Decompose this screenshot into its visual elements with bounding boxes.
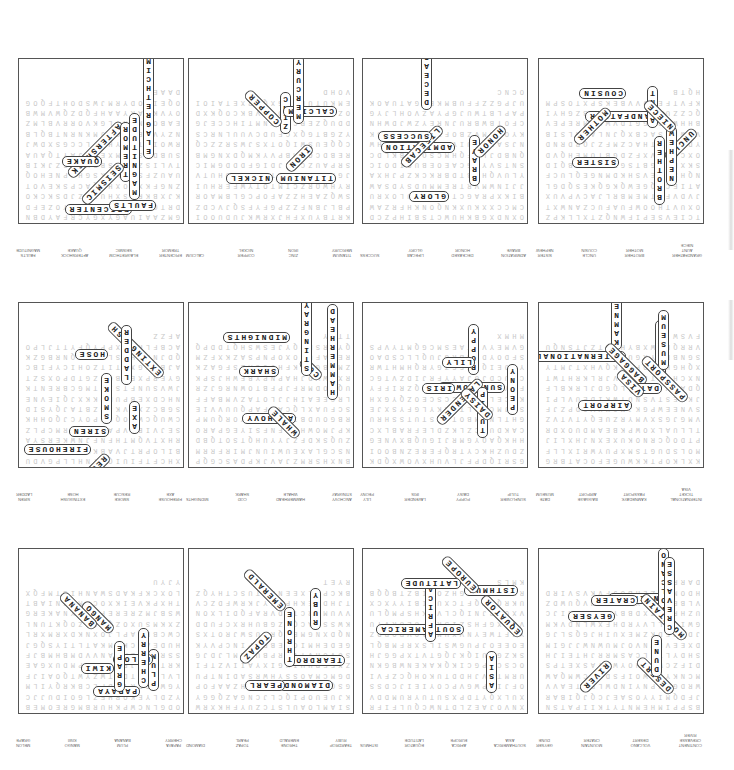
puzzle-3: TEARDROPRUBYTHRONEEMERALDTOPAZPEARLDIAMO… [184, 548, 354, 748]
word-list-entry: LADDER [16, 492, 32, 497]
grid-letters: GMZAAIUAGYXGYCRFAYDBNDRTQGDBFAUYVHYAYOZE… [22, 88, 180, 221]
puzzle-6: SUNFLOWERTULIPPOPPYDAISYLAVENDERIRISLILY… [358, 302, 528, 502]
word-list-entry: AUNT [682, 248, 693, 253]
word-list-column: LILYPEONY [360, 468, 374, 502]
circled-word: SOUTHAMERICA [376, 624, 464, 635]
letter-grid: ODGLNCWPKHURBMGREOMEBYZDLYEKORHEZLGOIDUJ… [18, 548, 184, 714]
word-list-entry: AIRPORT [579, 492, 597, 497]
word-list-entry: NEPHEW [536, 248, 554, 253]
word-list-entry: GRANDFATHER [672, 253, 702, 258]
word-list-entry: FAULTS [21, 253, 36, 258]
word-list-column: BAGGAGEAIRPORT [578, 468, 598, 502]
word-list-entry: SMOKE [115, 497, 129, 502]
word-list: SOUTHAMERICAASIAAFRICAEUROPEEQUATORLATIT… [358, 714, 528, 748]
word-list-column: SUCCESS [360, 224, 379, 258]
word-list: ANCHOVYSTINGRAYHAMMERHEADWHALECODSHARKMI… [184, 468, 354, 502]
word-list-entry: TOPAZ [236, 743, 249, 748]
word-list-entry: BAGGAGE [578, 497, 598, 502]
circled-word: MIDNIGHTS [223, 332, 290, 343]
word-list-entry: PEONY [360, 492, 374, 497]
word-list-column: EPICENTERTREMOR [159, 224, 182, 258]
word-list-entry: STINGRAY [332, 492, 352, 497]
word-list: SUNFLOWERTULIPPOPPYDAISYLAVENDERIRISLILY… [358, 468, 528, 502]
circled-word: HOSE [75, 349, 108, 360]
word-list-column: EQUATORLATITUDE [405, 714, 424, 748]
circled-word: FAULTS [109, 200, 156, 211]
word-list-entry: PAPAYA [166, 743, 181, 748]
circled-word: SISTER [572, 157, 619, 168]
circled-word: SUCCESS [378, 131, 432, 142]
word-list-entry: PLUM [117, 743, 128, 748]
word-list-column: UNCLECOUSIN [581, 224, 597, 258]
circled-word: GLORY [409, 191, 449, 202]
letter-grid: SIAMLOAULSTCZUYFHKXRWKJUEUOPIQCLJCNGAZQG… [188, 548, 354, 714]
word-list-entry: COPPER [238, 253, 255, 258]
letter-grid: GSRIQDPFJLVUHXVOWXQDKZDUZHKCYTRQFEREZNBO… [362, 302, 528, 468]
word-list-entry: RUBY [335, 738, 346, 743]
word-list: PAPAYACHERRYPLUMBANANAMANGOKIWIMELONGRAP… [14, 714, 184, 748]
word-list-column: SMOKERESCUE [114, 468, 131, 502]
word-list-entry: GEYSER [536, 743, 553, 748]
circled-word: LILY [442, 357, 475, 368]
circled-word: PEARL [245, 680, 285, 691]
word-list-entry: NIECE [681, 243, 693, 248]
word-list-entry: DECEASED [451, 253, 473, 258]
word-list-entry: LATITUDE [405, 738, 424, 743]
circled-word: LADDER [121, 325, 132, 385]
word-list-entry: MELON [16, 743, 30, 748]
grid-letters: GSRIQDPFJLVUHXVOWXQDKZDUZHKCYTRQFEREZNBO… [366, 332, 524, 465]
circled-word: CREVASSE [664, 557, 675, 635]
circled-word: DIAMOND [279, 680, 333, 691]
word-list-column: AFRICAEUROPE [450, 714, 467, 748]
circled-word: LATITUDE [401, 578, 461, 589]
letter-grid: KXLKOPTKKWUGEFOCATBRGMOLSDUGTSMXPUYWRIXL… [538, 302, 704, 468]
circled-word: CALCIUM [283, 106, 337, 117]
circled-word: BRAVE [469, 135, 480, 186]
circled-word: KIWI [81, 663, 114, 674]
word-list-entry: EQUATOR [405, 743, 424, 748]
letter-grid: OXNDXGBKHUWCTSBIHPZCDCMCCXXKUXKNQONKHFRZ… [362, 58, 528, 224]
word-list-entry: SUNFLOWER [500, 497, 526, 502]
circled-word: IRIS [422, 383, 455, 394]
word-list-entry: BROTHER [625, 253, 645, 258]
word-list-column: CALCIUM [186, 224, 204, 258]
word-list-entry: EPICENTER [159, 253, 182, 258]
letter-grid: BNXHSRMZJAVJKPDASCGQPNSCGLAXEUWIUNJMIRFR… [188, 302, 354, 468]
word-list-entry: ELAGRETHCIM [109, 253, 138, 258]
word-list-entry: WHALE [283, 492, 297, 497]
word-list-column: SISTERNEPHEW [536, 224, 554, 258]
word-list-entry: TEARDROP [330, 743, 352, 748]
word-list-entry: GLORY [408, 248, 422, 253]
word-list-entry: SEISMIC [115, 248, 131, 253]
word-list-column: PAPAYACHERRY [165, 714, 182, 748]
word-list-entry: THRONE [281, 743, 298, 748]
word-list-entry: PEARL [236, 738, 249, 743]
word-list-column: GEYSERDUNE [536, 714, 553, 748]
circled-word: AFRICA [425, 582, 436, 642]
word-list-column: FIREHOUSEAXE [159, 468, 182, 502]
puzzle-9: GRANDFATHERAUNTNIECEBROTHERMOTHERUNCLECO… [534, 58, 704, 258]
circled-word: CHERRY [138, 628, 149, 688]
word-list-entry: DATE [540, 497, 550, 502]
circled-word: AXE [129, 401, 140, 434]
word-list-column: VOLCANODESERT [631, 714, 651, 748]
circled-word: SIREN [69, 426, 109, 437]
word-list-column: ZINCIRON [288, 224, 298, 258]
word-list-entry: DIAMOND [186, 743, 205, 748]
word-list: GRANDFATHERAUNTNIECEBROTHERMOTHERUNCLECO… [534, 224, 704, 258]
word-list-column: ADMIRATIONBRAVE [501, 224, 526, 258]
word-list-entry: VISA [682, 487, 691, 492]
word-list-entry: TREMOR [162, 248, 179, 253]
word-list-entry: CHERRY [165, 738, 182, 743]
word-list-entry: SHARK [235, 492, 249, 497]
circled-word: ASIA [486, 651, 497, 693]
word-list-entry: KIWI [68, 738, 77, 743]
word-list-entry: SOUTHAMERICA [494, 743, 526, 748]
word-list-entry: AFTERSHOCK [61, 253, 88, 258]
puzzle-4: PAPAYACHERRYPLUMBANANAMANGOKIWIMELONGRAP… [14, 548, 184, 748]
word-list-entry: RIVER [684, 733, 696, 738]
word-list-column: MELONGRAPE [16, 714, 30, 748]
puzzle-11: TITANIUMMERCURYZINCIRONCOPPERNICKELCALCI… [184, 58, 354, 258]
letter-grid: TCIEVSEPIFWNQZTXLLKPZOXUVTHOOWFUAFUCZANW… [538, 58, 704, 224]
puzzle-12: EPICENTERTREMORELAGRETHCIMSEISMICAFTERSH… [14, 58, 184, 258]
